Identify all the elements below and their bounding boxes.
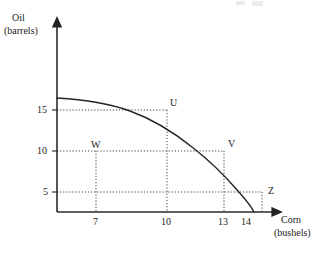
ytick-label-5: 5 — [43, 186, 48, 197]
xtick-label-14: 14 — [241, 216, 251, 227]
point-label-z: Z — [268, 185, 274, 196]
point-label-u: U — [170, 97, 177, 108]
ytick-label-15: 15 — [37, 104, 47, 115]
ppf-chart: Oil (barrels) Corn (bushels) 15 10 5 7 1… — [0, 0, 329, 259]
y-axis-title-line1: Oil — [12, 12, 25, 23]
x-axis-title-line2: (bushels) — [274, 227, 311, 238]
xtick-label-7: 7 — [93, 216, 98, 227]
ytick-label-10: 10 — [37, 145, 47, 156]
xtick-label-10: 10 — [161, 216, 171, 227]
x-axis-title-line1: Corn — [281, 214, 301, 225]
point-label-v: V — [228, 138, 235, 149]
point-label-w: W — [91, 139, 100, 150]
y-axis-title-line2: (barrels) — [4, 25, 38, 36]
xtick-label-13: 13 — [218, 216, 228, 227]
